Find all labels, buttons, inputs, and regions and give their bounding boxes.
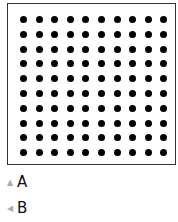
grid-dot: [20, 120, 27, 127]
dot-grid-figure: [7, 3, 176, 165]
grid-dot: [67, 31, 74, 38]
grid-dot: [82, 75, 89, 82]
grid-dot: [20, 31, 27, 38]
grid-dot: [51, 31, 58, 38]
grid-dot: [51, 134, 58, 141]
grid-dot: [20, 60, 27, 67]
grid-dot: [36, 31, 43, 38]
grid-dot: [82, 46, 89, 53]
option-b[interactable]: ◀ B: [5, 199, 27, 217]
grid-dot: [114, 149, 121, 156]
grid-dot: [114, 60, 121, 67]
grid-dot: [36, 60, 43, 67]
grid-dot: [129, 31, 136, 38]
grid-dot: [98, 60, 105, 67]
grid-dot: [82, 105, 89, 112]
grid-dot: [114, 134, 121, 141]
grid-dot: [82, 16, 89, 23]
grid-dot: [160, 90, 167, 97]
grid-dot: [129, 90, 136, 97]
grid-dot: [20, 46, 27, 53]
grid-dot: [145, 120, 152, 127]
grid-dot: [129, 46, 136, 53]
grid-dot: [129, 75, 136, 82]
grid-dot: [51, 46, 58, 53]
grid-dot: [51, 16, 58, 23]
grid-dot: [82, 90, 89, 97]
grid-dot: [114, 16, 121, 23]
grid-dot: [67, 149, 74, 156]
grid-dot: [82, 31, 89, 38]
grid-dot: [145, 46, 152, 53]
grid-dot: [82, 60, 89, 67]
grid-dot: [67, 75, 74, 82]
grid-dot: [67, 134, 74, 141]
grid-dot: [82, 134, 89, 141]
grid-dot: [82, 120, 89, 127]
grid-dot: [114, 105, 121, 112]
grid-dot: [145, 31, 152, 38]
grid-dot: [67, 60, 74, 67]
grid-dot: [67, 46, 74, 53]
grid-dot: [82, 149, 89, 156]
grid-dot: [36, 75, 43, 82]
grid-dot: [98, 46, 105, 53]
grid-dot: [129, 16, 136, 23]
grid-dot: [67, 105, 74, 112]
triangle-left-icon: ◀: [5, 204, 15, 213]
grid-dot: [51, 90, 58, 97]
grid-dot: [20, 90, 27, 97]
option-a-label: A: [17, 173, 27, 191]
grid-dot: [51, 120, 58, 127]
grid-dot: [160, 31, 167, 38]
grid-dot: [145, 16, 152, 23]
grid-dot: [36, 105, 43, 112]
triangle-up-icon: ▲: [5, 178, 15, 187]
grid-dot: [20, 134, 27, 141]
grid-dot: [20, 105, 27, 112]
grid-dot: [36, 120, 43, 127]
grid-dot: [129, 60, 136, 67]
grid-dot: [160, 60, 167, 67]
grid-dot: [114, 75, 121, 82]
grid-dot: [114, 31, 121, 38]
grid-dot: [160, 46, 167, 53]
grid-dot: [67, 16, 74, 23]
option-b-label: B: [17, 199, 27, 217]
grid-dot: [145, 75, 152, 82]
grid-dot: [98, 75, 105, 82]
grid-dot: [129, 105, 136, 112]
grid-dot: [98, 16, 105, 23]
grid-dot: [36, 90, 43, 97]
grid-dot: [36, 46, 43, 53]
grid-dot: [20, 75, 27, 82]
option-a[interactable]: ▲ A: [5, 173, 27, 191]
grid-dot: [98, 120, 105, 127]
grid-dot: [160, 120, 167, 127]
grid-dot: [145, 149, 152, 156]
grid-dot: [129, 120, 136, 127]
grid-dot: [36, 149, 43, 156]
grid-dot: [51, 75, 58, 82]
grid-dot: [160, 149, 167, 156]
grid-dot: [160, 134, 167, 141]
grid-dot: [98, 90, 105, 97]
grid-dot: [36, 134, 43, 141]
grid-dot: [98, 134, 105, 141]
grid-dot: [51, 149, 58, 156]
grid-dot: [98, 105, 105, 112]
grid-dot: [51, 105, 58, 112]
grid-dot: [145, 90, 152, 97]
grid-dot: [129, 149, 136, 156]
grid-dot: [51, 60, 58, 67]
grid-dot: [160, 16, 167, 23]
grid-dot: [98, 31, 105, 38]
grid-dot: [20, 149, 27, 156]
grid-dot: [114, 120, 121, 127]
grid-dot: [114, 46, 121, 53]
grid-dot: [145, 134, 152, 141]
grid-dot: [114, 90, 121, 97]
grid-dot: [160, 105, 167, 112]
grid-dot: [129, 134, 136, 141]
grid-dot: [145, 105, 152, 112]
